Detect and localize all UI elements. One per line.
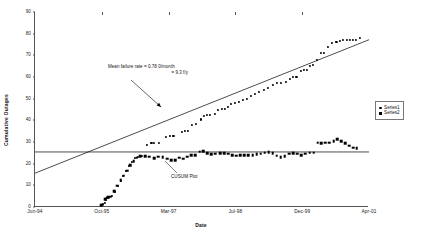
data-point	[153, 157, 156, 160]
data-point	[136, 156, 139, 159]
data-point	[227, 152, 230, 155]
chart-legend: Series1Series2	[375, 101, 404, 120]
data-point	[312, 151, 315, 154]
data-point	[275, 155, 278, 158]
legend-item-series2[interactable]: Series2	[379, 111, 400, 116]
data-point	[157, 155, 160, 158]
data-point	[308, 152, 311, 155]
data-point	[223, 152, 226, 155]
legend-swatch-icon	[379, 107, 382, 110]
data-point	[178, 157, 181, 160]
data-point	[116, 184, 119, 187]
data-point	[148, 155, 151, 158]
y-tick-mark-30	[33, 142, 36, 143]
x-tick-mark-mar-97	[169, 12, 170, 15]
data-point	[263, 152, 266, 155]
data-point	[126, 169, 129, 172]
annotation-line-2: = 9.3 f/y	[108, 70, 204, 76]
legend-label: Series2	[384, 111, 400, 116]
data-point	[210, 153, 213, 156]
x-tick-label-apr-01: Apr-01	[362, 206, 377, 215]
data-point	[336, 138, 339, 141]
data-point	[340, 140, 343, 143]
data-point	[255, 153, 258, 156]
data-point	[292, 152, 295, 155]
x-tick-label-mar-97: Mar-97	[161, 206, 177, 215]
plot-area: 0102030405060708090 Jun-94Oct-95Mar-97Ju…	[34, 12, 368, 207]
data-point	[129, 164, 132, 167]
data-point	[113, 190, 116, 193]
data-point	[304, 152, 307, 155]
data-point	[214, 152, 217, 155]
data-point	[352, 147, 355, 150]
y-tick-mark-40	[33, 120, 36, 121]
data-point	[166, 158, 169, 161]
data-point	[174, 159, 177, 162]
x-tick-label-jun-94: Jun-94	[27, 206, 42, 215]
data-point	[348, 144, 351, 147]
data-point	[279, 156, 282, 159]
x-tick-mark-dec-99	[302, 12, 303, 15]
mean-failure-rate-annotation: Mean failure rate = 0.78 0/month = 9.3 f…	[108, 64, 204, 76]
y-tick-mark-80	[33, 33, 36, 34]
data-point	[355, 147, 358, 150]
data-point	[324, 142, 327, 145]
data-point	[247, 154, 250, 157]
plot-lines-layer	[35, 12, 369, 207]
data-point	[144, 155, 147, 158]
data-point	[283, 155, 286, 158]
data-point	[162, 156, 165, 159]
data-point	[190, 154, 193, 157]
cusum-leader-line	[165, 161, 177, 173]
data-point	[132, 160, 135, 163]
trend-line	[35, 40, 369, 173]
data-point	[243, 154, 246, 157]
y-tick-mark-60	[33, 77, 36, 78]
data-point	[288, 152, 291, 155]
y-tick-mark-70	[33, 55, 36, 56]
data-point	[316, 141, 319, 144]
y-axis-title: Cumulative Outages	[3, 94, 9, 146]
data-point	[320, 142, 323, 145]
data-point	[119, 179, 122, 182]
y-tick-mark-20	[33, 163, 36, 164]
data-point	[182, 157, 185, 160]
data-point	[344, 142, 347, 145]
data-point	[272, 152, 275, 155]
y-tick-mark-90	[33, 12, 36, 13]
data-point	[109, 196, 112, 199]
data-point	[235, 155, 238, 158]
chart-figure: Cumulative Outages 0102030405060708090 J…	[0, 0, 421, 239]
annotation-line-1: Mean failure rate = 0.78 0/month	[108, 64, 175, 69]
x-axis-title: Date	[195, 222, 207, 228]
y-tick-mark-10	[33, 185, 36, 186]
data-point	[328, 141, 331, 144]
data-point	[300, 154, 303, 157]
x-tick-label-dec-99: Dec-99	[294, 206, 310, 215]
legend-swatch-icon	[379, 112, 382, 115]
data-point	[332, 140, 335, 143]
y-tick-mark-50	[33, 98, 36, 99]
data-point	[198, 150, 201, 153]
x-tick-mark-jul-98	[235, 12, 236, 15]
x-tick-label-oct-95: Oct-95	[94, 206, 109, 215]
data-point	[202, 150, 205, 153]
data-point	[170, 159, 173, 162]
plot-inner: 0102030405060708090 Jun-94Oct-95Mar-97Ju…	[35, 12, 368, 206]
data-point	[251, 154, 254, 157]
cusum-plot-label: CUSUM Plot	[171, 174, 198, 179]
data-point	[186, 155, 189, 158]
x-tick-label-jul-98: Jul-98	[229, 206, 243, 215]
data-point	[219, 152, 222, 155]
data-point	[206, 152, 209, 155]
data-point	[139, 155, 142, 158]
data-point	[239, 154, 242, 157]
data-point	[194, 154, 197, 157]
annotation-arrow-line	[131, 80, 161, 107]
data-point	[122, 174, 125, 177]
data-point	[268, 151, 271, 154]
data-point	[296, 152, 299, 155]
data-point	[231, 154, 234, 157]
x-tick-mark-oct-95	[102, 12, 103, 15]
data-point	[259, 152, 262, 155]
